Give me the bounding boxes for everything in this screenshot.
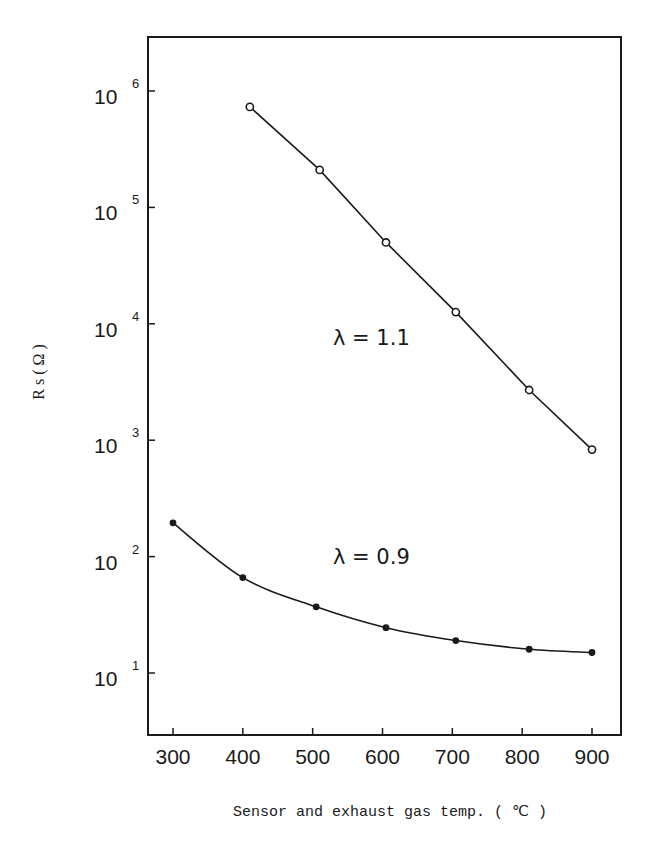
x-tick-label: 800 [505, 745, 540, 768]
y-axis-ticks: 101102103104105106 [94, 76, 155, 690]
data-point-filled [526, 646, 533, 653]
y-tick-exponent: 2 [132, 542, 139, 557]
x-axis-label: Sensor and exhaust gas temp. ( ℃ ) [233, 804, 547, 821]
series-lambda-0-9 [170, 519, 596, 655]
chart: 300400500600700800900 101102103104105106… [0, 0, 646, 849]
data-point-filled [383, 624, 390, 631]
data-point-open [316, 166, 323, 173]
y-axis-label: R s ( Ω ) [30, 344, 48, 399]
y-tick-exponent: 3 [132, 425, 139, 440]
data-point-open [246, 103, 253, 110]
y-tick-label: 10 [94, 667, 117, 690]
x-tick-label: 700 [435, 745, 470, 768]
y-tick-label: 10 [94, 318, 117, 341]
x-tick-label: 900 [574, 745, 609, 768]
y-tick-label: 10 [94, 434, 117, 457]
data-point-open [382, 239, 389, 246]
x-tick-label: 600 [365, 745, 400, 768]
series-annotation: λ = 0.9 [333, 545, 410, 569]
y-tick-exponent: 6 [132, 76, 139, 91]
data-point-filled [170, 519, 177, 526]
data-point-open [526, 386, 533, 393]
y-tick-label: 10 [94, 201, 117, 224]
y-tick-exponent: 1 [132, 658, 139, 673]
x-tick-label: 500 [295, 745, 330, 768]
data-point-filled [239, 574, 246, 581]
y-tick-label: 10 [94, 551, 117, 574]
data-point-filled [589, 649, 596, 656]
series-lambda-1-1 [246, 103, 595, 453]
data-point-filled [452, 637, 459, 644]
series-annotation: λ = 1.1 [333, 326, 410, 350]
x-tick-label: 300 [155, 745, 190, 768]
series-line [173, 523, 592, 653]
x-tick-label: 400 [225, 745, 260, 768]
y-tick-exponent: 4 [132, 309, 139, 324]
y-tick-label: 10 [94, 85, 117, 108]
series-line [250, 107, 592, 450]
annotations: λ = 1.1λ = 0.9 [333, 326, 410, 569]
y-tick-exponent: 5 [132, 192, 139, 207]
data-point-filled [313, 603, 320, 610]
data-point-open [588, 446, 595, 453]
data-point-open [452, 309, 459, 316]
series-layer [170, 103, 596, 656]
